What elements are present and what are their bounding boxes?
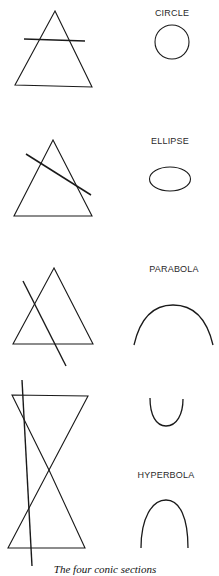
hyperbola-lower-branch: [141, 500, 188, 548]
hyperbola-label: HYPERBOLA: [138, 470, 195, 480]
ellipse-label: ELLIPSE: [151, 136, 189, 146]
conic-sections-diagram: [0, 0, 219, 576]
ellipse-curve: [150, 167, 191, 191]
ellipse-cone-diagram: [14, 140, 92, 216]
cone-triangle: [15, 11, 92, 87]
parabola-cone-diagram: [13, 268, 93, 366]
parabola-curve: [134, 305, 213, 345]
cutting-plane: [24, 39, 85, 41]
cone-triangle: [14, 140, 92, 216]
hyperbola-upper-branch: [150, 398, 183, 426]
circle-label: CIRCLE: [155, 8, 189, 18]
circle-curve: [155, 25, 189, 59]
figure-caption: The four conic sections: [54, 563, 156, 575]
cone-triangle: [13, 268, 93, 344]
lower-cone: [8, 470, 85, 548]
parabola-label: PARABOLA: [149, 264, 198, 274]
hyperbola-double-cone-diagram: [8, 380, 88, 566]
cutting-plane: [22, 380, 32, 566]
circle-cone-diagram: [15, 11, 92, 87]
cutting-plane: [23, 281, 66, 366]
